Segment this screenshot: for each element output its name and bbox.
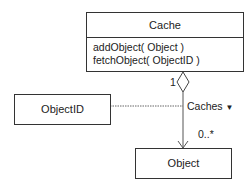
association-label: Caches	[187, 100, 223, 112]
aggregation-diamond-icon	[177, 72, 189, 92]
association-name: Caches ▼	[187, 100, 233, 112]
cache-operations: addObject( Object ) fetchObject( ObjectI…	[87, 38, 243, 67]
target-multiplicity: 0..*	[198, 128, 214, 140]
direction-triangle-icon: ▼	[226, 103, 234, 112]
cache-class-name: Cache	[87, 13, 243, 38]
operation-addobject: addObject( Object )	[93, 41, 243, 54]
class-cache: Cache addObject( Object ) fetchObject( O…	[86, 12, 244, 72]
class-objectid: ObjectID	[14, 94, 111, 125]
source-multiplicity: 1	[170, 76, 176, 88]
class-object: Object	[135, 148, 232, 179]
operation-fetchobject: fetchObject( ObjectID )	[93, 54, 243, 67]
